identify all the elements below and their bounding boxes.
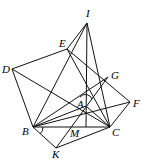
segment-BK [33,127,56,148]
segment-EF [67,49,130,102]
segment-KG [56,77,108,148]
angle-arc-B [40,127,43,134]
point-label-E: E [58,37,66,49]
segment-DC [12,69,110,127]
point-label-A: A [76,98,84,110]
point-label-D: D [1,63,10,75]
point-label-B: B [22,125,29,137]
segment-FC [110,102,130,127]
point-label-C: C [112,126,120,138]
point-label-M: M [69,127,80,139]
segment-IM [86,23,87,127]
point-label-G: G [111,69,119,81]
point-label-I: I [85,7,91,19]
geometry-diagram: IEDGFABMCK [0,0,152,168]
segment-IE [67,23,87,49]
figure-canvas: IEDGFABMCK [0,0,152,168]
point-label-K: K [51,148,60,160]
segment-DE [12,49,67,69]
point-label-F: F [132,97,140,109]
segment-EC [67,49,110,127]
segment-DB [12,69,33,127]
